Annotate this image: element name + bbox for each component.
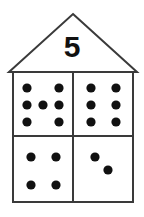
dot xyxy=(51,180,60,189)
dot xyxy=(38,100,47,109)
dot xyxy=(111,100,120,109)
roof-number-label: 5 xyxy=(0,30,144,64)
dot xyxy=(90,152,99,161)
dot xyxy=(51,152,60,161)
dot xyxy=(22,100,31,109)
dot xyxy=(111,117,120,126)
dot xyxy=(86,117,95,126)
dot xyxy=(26,180,35,189)
dot xyxy=(54,117,63,126)
dot xyxy=(22,117,31,126)
dot xyxy=(22,83,31,92)
dot xyxy=(111,83,120,92)
dot xyxy=(54,100,63,109)
dot xyxy=(103,165,112,174)
dot xyxy=(26,152,35,161)
dot xyxy=(86,100,95,109)
dot xyxy=(86,83,95,92)
number-house-figure: 5 xyxy=(0,0,144,217)
dot xyxy=(54,83,63,92)
